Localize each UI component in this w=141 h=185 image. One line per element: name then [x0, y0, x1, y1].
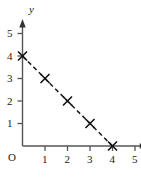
x-axis-ticks — [45, 146, 135, 151]
line-chart-figure: y O 5 4 3 2 1 1 2 3 4 5 — [0, 0, 141, 185]
origin-label: O — [8, 152, 16, 163]
y-tick-label-1: 1 — [7, 118, 13, 129]
x-axis-arrow-icon — [140, 143, 141, 149]
y-tick-label-2: 2 — [7, 96, 13, 107]
y-tick-label-4: 4 — [7, 51, 13, 62]
x-tick-label-5: 5 — [132, 154, 138, 165]
y-tick-label-5: 5 — [7, 28, 13, 39]
y-tick-label-3: 3 — [7, 73, 13, 84]
plot-area — [0, 0, 141, 185]
y-axis-arrow-icon — [19, 19, 25, 28]
x-tick-label-3: 3 — [87, 154, 93, 165]
data-point-marker — [86, 119, 95, 128]
y-axis-ticks — [18, 34, 23, 124]
x-tick-label-2: 2 — [65, 154, 71, 165]
y-axis-label: y — [29, 4, 34, 15]
data-point-marker — [41, 74, 50, 83]
data-point-markers — [18, 52, 117, 151]
x-tick-label-1: 1 — [42, 154, 48, 165]
x-tick-label-4: 4 — [110, 154, 116, 165]
data-point-marker — [63, 97, 72, 106]
